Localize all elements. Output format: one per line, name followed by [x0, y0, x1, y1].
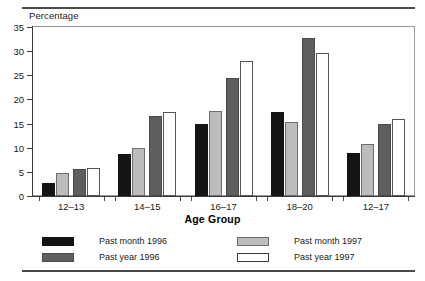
x-axis-tick: [191, 197, 192, 201]
top-rule: [22, 7, 415, 9]
bar: [163, 112, 176, 196]
x-axis-tick: [104, 197, 105, 201]
legend-item-label: Past year 1997: [294, 252, 355, 262]
legend-item-label: Past year 1996: [99, 252, 160, 262]
y-axis-tick-label: 30: [0, 46, 24, 57]
x-axis-tick: [256, 197, 257, 201]
x-axis-tick: [267, 197, 268, 201]
bar: [240, 61, 253, 196]
bar: [118, 154, 131, 196]
legend-swatch-icon: [237, 253, 269, 262]
bar: [361, 144, 374, 196]
bar: [285, 122, 298, 196]
x-axis-tick: [408, 197, 409, 201]
y-axis-title: Percentage: [29, 10, 79, 21]
bar: [316, 53, 329, 196]
x-axis-tick-label: 14–15: [134, 201, 160, 212]
bottom-rule: [22, 270, 415, 272]
bar: [149, 116, 162, 196]
legend-swatch-icon: [237, 237, 269, 246]
legend-item-label: Past month 1997: [294, 236, 362, 246]
x-axis-title: Age Group: [0, 213, 425, 225]
bar: [132, 148, 145, 196]
bar-group: [271, 27, 329, 196]
x-axis-tick: [343, 197, 344, 201]
bar-group: [42, 27, 100, 196]
bars-layer: [33, 27, 414, 196]
bar-group: [195, 27, 253, 196]
y-axis-tick-label: 25: [0, 70, 24, 81]
bar: [209, 111, 222, 196]
bar-group: [347, 27, 405, 196]
bar: [73, 169, 86, 196]
x-axis-tick: [39, 197, 40, 201]
legend-swatch-icon: [42, 237, 74, 246]
bar: [195, 124, 208, 196]
y-axis-tick: [27, 196, 33, 197]
bar: [302, 38, 315, 196]
x-axis-tick-label: 12–13: [58, 201, 84, 212]
chart-legend: Past month 1996Past year 1996Past month …: [0, 236, 425, 268]
bar: [378, 124, 391, 196]
y-axis-tick-label: 10: [0, 142, 24, 153]
x-axis-tick-label: 18–20: [286, 201, 312, 212]
x-axis-tick: [115, 197, 116, 201]
x-axis-tick-label: 12–17: [363, 201, 389, 212]
y-axis-tick-label: 15: [0, 118, 24, 129]
x-axis-tick-label: 16–17: [210, 201, 236, 212]
bar: [347, 153, 360, 196]
bar: [87, 168, 100, 196]
y-axis-tick-label: 20: [0, 94, 24, 105]
y-axis-tick-label: 5: [0, 166, 24, 177]
legend-swatch-icon: [42, 253, 74, 262]
bar: [56, 173, 69, 196]
bar-group: [118, 27, 176, 196]
bar-chart-figure: Percentage 05101520253035 12–1314–1516–1…: [0, 0, 425, 281]
x-axis-tick: [332, 197, 333, 201]
bar: [271, 112, 284, 196]
y-axis-tick-label: 0: [0, 191, 24, 202]
x-axis-tick: [180, 197, 181, 201]
y-axis-tick-label: 35: [0, 22, 24, 33]
bar: [392, 119, 405, 196]
bar: [42, 183, 55, 196]
legend-item-label: Past month 1996: [99, 236, 167, 246]
bar: [226, 78, 239, 196]
x-axis-line: [32, 196, 415, 197]
